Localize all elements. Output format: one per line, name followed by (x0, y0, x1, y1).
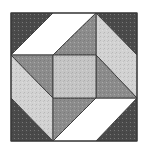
quilt-pieces (11, 13, 137, 141)
center-square-texture (53, 55, 96, 98)
quilt-block (0, 0, 146, 147)
